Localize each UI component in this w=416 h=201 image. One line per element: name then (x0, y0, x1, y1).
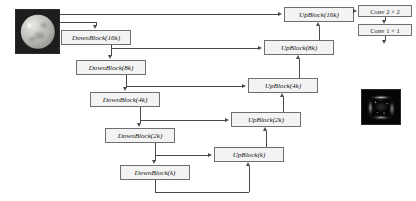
edge-skip-4k-h (140, 120, 225, 121)
edge-skip-2k-arrow (208, 153, 212, 157)
node-label: Conv 2 × 2 (370, 8, 400, 15)
edge-down2k-to-downk-v (155, 143, 156, 161)
edge-bottleneck-v1 (155, 180, 156, 192)
edge-input-to-up16k-arrow (278, 12, 282, 16)
edge-input-to-down16k-h (60, 22, 96, 23)
node-label: UpBlock(16k) (299, 11, 339, 19)
output-image (361, 89, 401, 125)
node-label: DownBlock(k) (135, 169, 176, 177)
diagram-canvas: DownBlock(16k) DownBlock(8k) DownBlock(4… (0, 0, 416, 201)
node-downblock-16k[interactable]: DownBlock(16k) (61, 30, 131, 45)
node-downblock-k[interactable]: DownBlock(k) (120, 165, 190, 180)
input-image-texture-2 (41, 23, 47, 28)
edge-down16k-to-down8k-arrow (108, 55, 112, 59)
node-upblock-8k[interactable]: UpBlock(8k) (264, 40, 334, 55)
edge-down8k-to-down4k-arrow (123, 87, 127, 91)
node-upblock-16k[interactable]: UpBlock(16k) (284, 7, 354, 22)
node-conv-2x2[interactable]: Conv 2 × 2 (358, 5, 412, 17)
node-label: DownBlock(4k) (103, 96, 148, 104)
edge-up4k-to-up8k-arrow (296, 55, 300, 59)
input-image (15, 9, 60, 54)
edge-conv2-to-conv1-arrow (382, 20, 386, 24)
edge-up2k-to-up4k-arrow (280, 93, 284, 97)
node-label: UpBlock(4k) (265, 82, 301, 90)
edge-upk-to-up2k-arrow (263, 127, 267, 131)
node-label: DownBlock(2k) (118, 132, 163, 140)
edge-down2k-to-downk-arrow (152, 160, 156, 164)
node-downblock-8k[interactable]: DownBlock(8k) (76, 60, 146, 75)
edge-up8k-to-up16k-arrow (316, 22, 320, 26)
node-upblock-4k[interactable]: UpBlock(4k) (248, 78, 318, 93)
node-label: DownBlock(16k) (72, 34, 120, 42)
edge-skip-16k-h (111, 48, 258, 49)
edge-input-to-up16k-h (60, 14, 278, 15)
node-label: UpBlock(2k) (248, 116, 284, 124)
edge-up16k-to-conv2-arrow (353, 9, 357, 13)
edge-up8k-to-up16k-v (319, 26, 320, 40)
node-label: UpBlock(k) (233, 151, 266, 159)
edge-up4k-to-up8k-v (299, 59, 300, 78)
edge-conv1-to-output-arrow (382, 40, 386, 44)
edge-bottleneck-h (155, 192, 249, 193)
node-conv-1x1[interactable]: Conv 1 × 1 (358, 24, 412, 36)
edge-up2k-to-up4k-v (283, 97, 284, 112)
output-image-points (362, 90, 400, 124)
node-label: UpBlock(8k) (281, 44, 317, 52)
edge-down4k-to-down2k-arrow (137, 123, 141, 127)
node-downblock-2k[interactable]: DownBlock(2k) (105, 128, 175, 143)
edge-input-to-down16k-arrow (93, 25, 97, 29)
node-label: Conv 1 × 1 (370, 27, 400, 34)
edge-bottleneck-v2 (249, 166, 250, 192)
edge-skip-8k-h (126, 86, 242, 87)
node-upblock-2k[interactable]: UpBlock(2k) (231, 112, 301, 127)
edge-bottleneck-arrow (246, 162, 250, 166)
edge-upk-to-up2k-v (266, 131, 267, 147)
edge-skip-8k-arrow (242, 84, 246, 88)
node-downblock-4k[interactable]: DownBlock(4k) (90, 92, 160, 107)
edge-skip-4k-arrow (225, 118, 229, 122)
node-upblock-k[interactable]: UpBlock(k) (214, 147, 284, 162)
edge-skip-16k-arrow (258, 46, 262, 50)
edge-skip-2k-h (155, 155, 208, 156)
node-label: DownBlock(8k) (89, 64, 134, 72)
